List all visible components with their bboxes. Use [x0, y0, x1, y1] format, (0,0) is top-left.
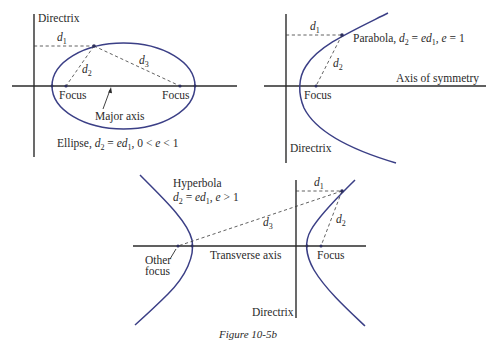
hyperbola-left-vertex-dot [191, 245, 194, 248]
parabola-focus-dot [315, 85, 318, 88]
hyperbola-focus-label: Focus [317, 249, 345, 261]
hyperbola-right-vertex-dot [306, 245, 309, 248]
hyperbola-point [340, 189, 344, 193]
major-axis-label: Major axis [95, 110, 145, 123]
ellipse-vertex-left-dot [51, 85, 54, 88]
ellipse-focus-right-label: Focus [162, 89, 190, 101]
hyperbola-other-focus-dot [177, 245, 180, 248]
hyperbola-equation: d2 = ed1, e > 1 [173, 191, 239, 206]
ellipse-point [92, 44, 96, 48]
parabola-d2-label: d2 [333, 57, 343, 72]
ellipse-directrix-label: Directrix [38, 12, 80, 24]
transverse-axis-label: Transverse axis [210, 249, 282, 261]
hyperbola-title: Hyperbola [173, 177, 222, 190]
figure-caption: Figure 10-5b [218, 328, 277, 340]
hyperbola-d3-label: d3 [263, 216, 273, 231]
hyperbola-directrix-label: Directrix [252, 306, 294, 318]
hyperbola-panel: Hyperbola d2 = ed1, e > 1 d1 d2 d3 Other… [133, 175, 366, 326]
ellipse-focus-left-dot [64, 84, 67, 87]
hyperbola-d1-label: d1 [314, 176, 324, 191]
major-axis-arrow [103, 90, 110, 109]
ellipse-d1-label: d1 [57, 31, 67, 46]
ellipse-focus-left-label: Focus [59, 89, 87, 101]
hyperbola-d2-label: d2 [336, 213, 346, 228]
parabola-directrix-label: Directrix [290, 142, 332, 154]
ellipse-panel: Directrix d1 d2 d3 Focus Focus Major axi… [12, 12, 237, 157]
other-focus-label-line2: focus [145, 265, 170, 277]
parabola-panel: d1 d2 Parabola, d2 = ed1, e = 1 Axis of … [264, 13, 486, 163]
ellipse-equation: Ellipse, d2 = ed1, 0 < e < 1 [57, 137, 179, 152]
ellipse-d2-label: d2 [82, 63, 92, 78]
parabola-focus-label: Focus [304, 89, 332, 101]
parabola-equation: Parabola, d2 = ed1, e = 1 [353, 32, 465, 47]
ellipse-d3-label: d3 [139, 54, 149, 69]
conic-sections-figure: Directrix d1 d2 d3 Focus Focus Major axi… [0, 0, 498, 347]
ellipse-vertex-right-dot [194, 85, 197, 88]
parabola-point [340, 33, 344, 37]
parabola-d1-label: d1 [310, 20, 320, 35]
major-axis-arrowhead [108, 87, 112, 93]
parabola-axis-label: Axis of symmetry [396, 72, 479, 85]
hyperbola-focus-dot [320, 245, 323, 248]
ellipse-focus-right-dot [178, 84, 181, 87]
